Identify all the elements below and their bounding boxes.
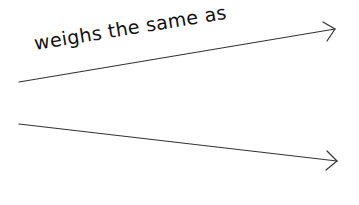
diagram-canvas: weighs the same as	[0, 0, 359, 205]
top-arrowhead-icon	[323, 22, 335, 41]
bottom-arrow	[19, 124, 337, 170]
bottom-arrow-shaft	[19, 124, 337, 161]
